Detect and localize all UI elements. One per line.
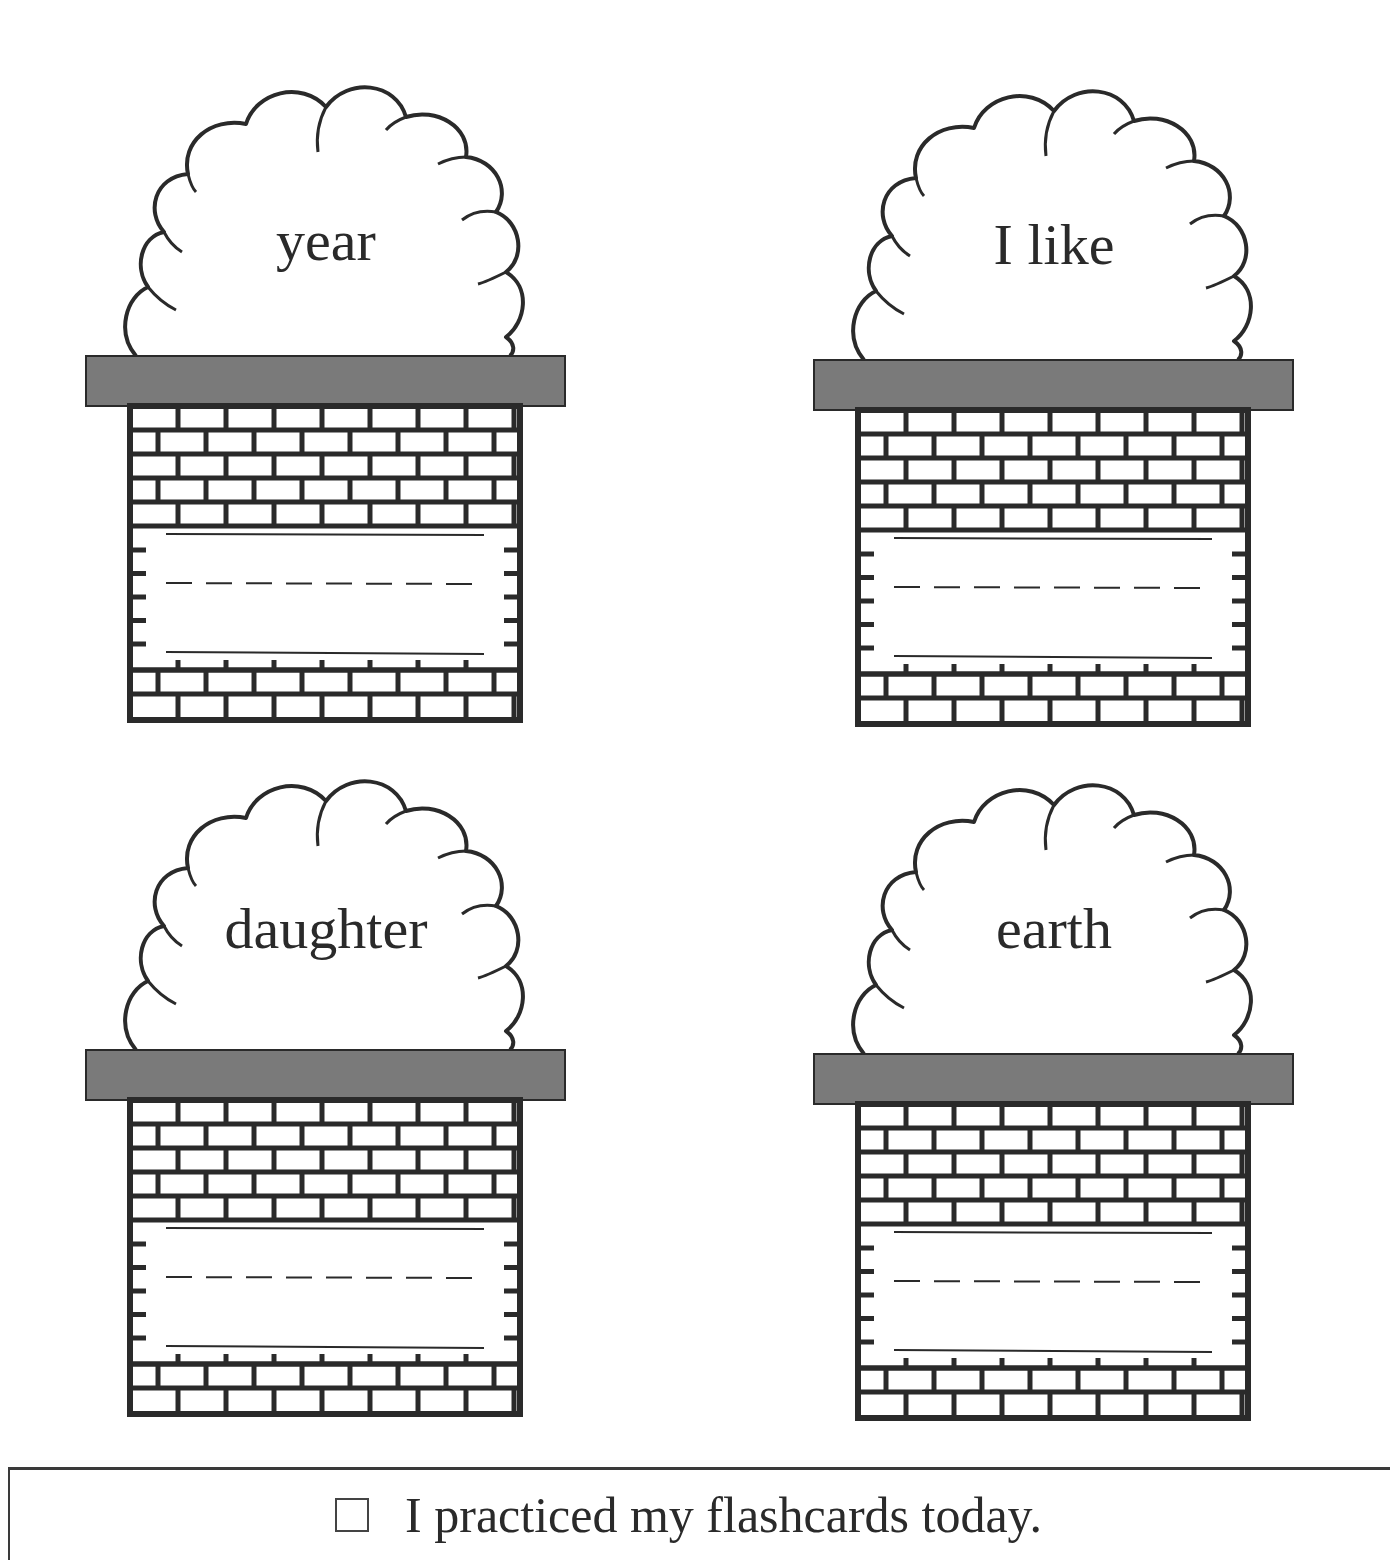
flashcard-chimney: earth [814, 770, 1354, 1470]
writing-top-line [166, 1228, 484, 1229]
chimney-cap [86, 1050, 565, 1100]
writing-top-line [894, 1232, 1212, 1233]
practice-checkbox-label: I practiced my flashcards today. [405, 1487, 1042, 1543]
writing-top-line [894, 538, 1212, 539]
chimney-cap [814, 1054, 1293, 1104]
flashcard-word: year [86, 212, 566, 270]
chimney-cap [814, 360, 1293, 410]
write-box [148, 1224, 502, 1354]
write-box [876, 1228, 1230, 1358]
write-box [876, 534, 1230, 664]
flashcard-word: daughter [86, 900, 566, 958]
writing-top-line [166, 534, 484, 535]
flashcard-chimney: daughter [86, 766, 626, 1466]
chimney-illustration [814, 770, 1354, 1470]
chimney-illustration [86, 72, 626, 772]
flashcard-word: I like [814, 216, 1294, 274]
flashcard-chimney: I like [814, 76, 1354, 776]
practice-footer: I practiced my flashcards today. [8, 1467, 1390, 1560]
write-box [148, 530, 502, 660]
chimney-illustration [86, 766, 626, 1466]
practice-checkbox[interactable] [335, 1498, 369, 1532]
flashcard-chimney: year [86, 72, 626, 772]
chimney-illustration [814, 76, 1354, 776]
chimney-cap [86, 356, 565, 406]
flashcard-word: earth [814, 900, 1294, 958]
